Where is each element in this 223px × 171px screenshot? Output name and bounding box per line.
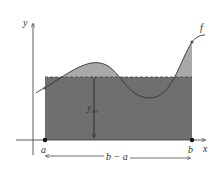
average-value-diagram: y x f a b yav b − a	[0, 0, 223, 171]
a-label: a	[41, 144, 46, 155]
average-rectangle	[45, 77, 192, 140]
point-a	[43, 138, 47, 142]
width-label: b − a	[106, 151, 128, 162]
average-label-sub: av	[91, 107, 99, 115]
curve-point-b	[190, 40, 193, 43]
b-label: b	[188, 144, 193, 155]
x-axis-label: x	[202, 143, 208, 154]
point-b	[190, 138, 194, 142]
curve-label: f	[200, 22, 204, 33]
y-axis-label: y	[22, 17, 28, 28]
curve-point-a	[43, 86, 46, 89]
